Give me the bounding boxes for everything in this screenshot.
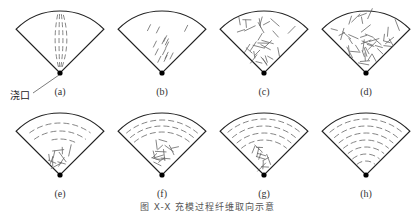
axial-fiber-streak <box>59 13 60 67</box>
random-fiber <box>255 145 263 152</box>
random-fiber <box>48 160 55 163</box>
gate-point-h <box>363 172 368 177</box>
random-fiber <box>246 20 247 27</box>
fiber-arc <box>34 131 86 139</box>
axial-fiber-streak <box>61 13 63 67</box>
fiber-arc <box>241 140 286 148</box>
random-fiber <box>254 51 255 57</box>
random-fiber <box>156 140 157 149</box>
random-fiber <box>267 154 271 164</box>
fiber-arc <box>237 133 292 143</box>
gate-point-e <box>57 172 62 177</box>
diagonal-fiber <box>158 56 161 62</box>
random-fiber <box>378 49 383 54</box>
random-fiber <box>49 154 50 160</box>
fiber-arc <box>339 133 394 143</box>
diagonal-fiber <box>162 38 165 44</box>
random-fiber <box>360 35 366 37</box>
random-fiber <box>368 54 372 60</box>
random-fiber <box>361 17 362 23</box>
diagonal-fiber <box>153 41 156 47</box>
fiber-arc <box>352 154 379 159</box>
random-fiber <box>237 30 244 32</box>
random-fiber <box>271 19 279 26</box>
fan-cavity-a <box>16 11 104 73</box>
random-fiber <box>350 51 360 52</box>
random-fiber <box>261 45 270 50</box>
fan-cavity-e <box>16 113 104 175</box>
fiber-orientation-diagram <box>0 0 415 212</box>
random-fiber <box>359 63 369 65</box>
random-fiber <box>384 46 392 47</box>
gate-point-d <box>363 70 368 75</box>
random-fiber <box>239 18 240 25</box>
random-fiber <box>252 146 255 153</box>
random-fiber <box>375 46 382 48</box>
fiber-arc <box>334 126 398 138</box>
random-fiber <box>349 16 352 24</box>
diagonal-fiber <box>164 55 167 61</box>
diagonal-fiber <box>185 25 188 31</box>
fiber-arc <box>126 120 197 133</box>
fan-cavity-c <box>220 11 308 73</box>
diagonal-fiber <box>155 49 158 55</box>
fiber-arc <box>348 147 384 154</box>
random-fiber <box>395 20 399 31</box>
panel-label-f: (f) <box>157 188 167 199</box>
panel-label-b: (b) <box>156 86 168 97</box>
panel-label-c: (c) <box>258 86 269 97</box>
random-fiber <box>288 26 295 33</box>
panel-label-e: (e) <box>54 188 65 199</box>
fan-cavity-b <box>118 11 206 73</box>
random-fiber <box>368 9 373 19</box>
random-fiber <box>356 45 360 51</box>
random-fiber <box>255 50 260 55</box>
random-fiber <box>265 56 267 62</box>
fan-cavity-h <box>322 113 410 175</box>
panel-label-h: (h) <box>360 188 372 199</box>
random-fiber <box>361 25 370 32</box>
random-fiber <box>268 56 273 59</box>
random-fiber <box>256 62 262 64</box>
gate-label: 浇口 <box>10 87 30 102</box>
fiber-arc <box>330 119 403 132</box>
diagonal-fiber <box>163 49 166 55</box>
fiber-arc <box>52 139 77 143</box>
random-fiber <box>53 151 55 158</box>
fiber-arc <box>232 126 296 138</box>
fiber-arc <box>228 119 301 132</box>
axial-fiber-streak <box>55 13 58 67</box>
diagonal-fiber <box>165 52 168 58</box>
random-fiber <box>159 139 167 141</box>
random-fiber <box>258 34 262 41</box>
random-fiber <box>258 23 264 33</box>
random-fiber <box>69 145 72 156</box>
fiber-arc <box>29 123 90 133</box>
random-fiber <box>362 51 364 57</box>
fiber-arc <box>357 161 375 164</box>
diagonal-fiber <box>164 36 167 42</box>
random-fiber <box>257 153 265 155</box>
diagonal-fiber <box>156 27 159 33</box>
random-fiber <box>352 14 360 22</box>
random-fiber <box>260 17 262 25</box>
random-fiber <box>155 151 166 152</box>
random-fiber <box>154 162 161 166</box>
fan-cavity-f <box>118 113 206 175</box>
random-fiber <box>384 34 385 40</box>
random-fiber <box>331 29 337 31</box>
panel-label-a: (a) <box>54 86 65 97</box>
random-fiber <box>171 147 178 149</box>
diagonal-fiber <box>148 25 151 31</box>
gate-point-b <box>159 70 164 75</box>
gate-point-f <box>159 172 164 177</box>
panel-label-g: (g) <box>258 188 270 199</box>
random-fiber <box>372 54 376 62</box>
random-fiber <box>256 157 265 160</box>
random-fiber <box>246 48 252 53</box>
panel-label-d: (d) <box>360 86 372 97</box>
random-fiber <box>263 22 269 25</box>
gate-point-g <box>261 172 266 177</box>
gate-point-a <box>57 70 62 75</box>
random-fiber <box>361 40 371 44</box>
